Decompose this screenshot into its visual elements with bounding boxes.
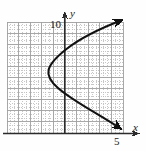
- parabola-curve: [48, 21, 121, 129]
- y-axis-tick-label-10: 10: [50, 19, 61, 30]
- x-axis-tick-label-5: 5: [114, 136, 120, 147]
- axis-lines: [3, 13, 138, 134]
- x-axis-label: x: [133, 122, 138, 133]
- y-axis-label: y: [70, 8, 75, 19]
- graph-figure: y x 10 5: [0, 0, 146, 151]
- plot-canvas: [0, 0, 146, 151]
